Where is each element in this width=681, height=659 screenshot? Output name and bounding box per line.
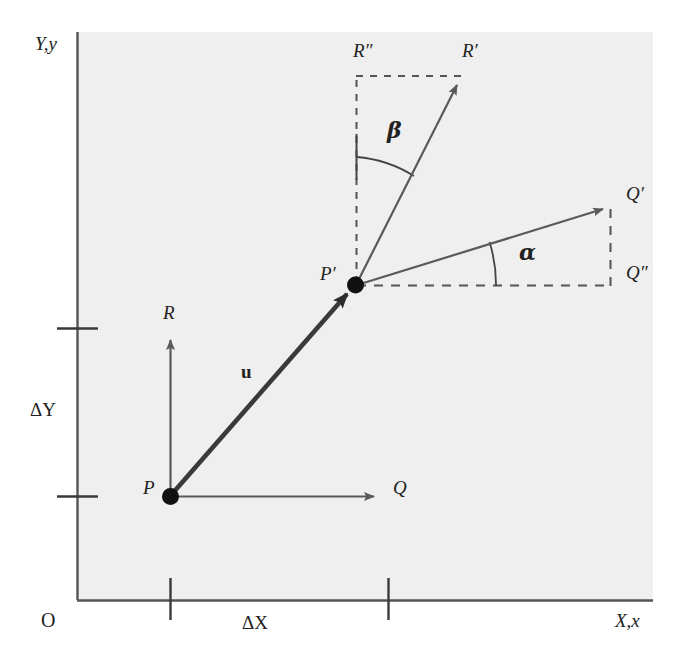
projection-Rdoubleprime-label: R″ <box>353 41 373 60</box>
diagram-canvas <box>0 0 681 659</box>
projection-Qdoubleprime-label: Q″ <box>626 263 648 282</box>
point-Pprime-label: P′ <box>320 264 336 283</box>
y-axis-label: Y,y <box>35 34 57 53</box>
origin-label: O <box>41 610 55 630</box>
y-extent-label: ΔY <box>30 400 56 419</box>
x-axis-label: X,x <box>615 611 640 630</box>
vector-Q-label: Q <box>393 478 407 497</box>
point-P-marker <box>162 488 179 505</box>
x-extent-label: ΔX <box>242 613 268 632</box>
point-P-label: P <box>143 478 155 497</box>
angle-beta-label: β <box>387 119 402 141</box>
angle-alpha-label: α <box>519 241 536 263</box>
point-Pprime-marker <box>347 277 364 294</box>
vector-diagram-figure: Y,y O X,x ΔX ΔY P P′ Q R u Q′ Q″ R′ R″ α… <box>0 0 681 659</box>
vector-R-label: R <box>163 303 175 322</box>
vector-Rprime-label: R′ <box>462 41 478 60</box>
vector-u-label: u <box>241 362 252 381</box>
vector-Qprime-label: Q′ <box>626 184 644 203</box>
